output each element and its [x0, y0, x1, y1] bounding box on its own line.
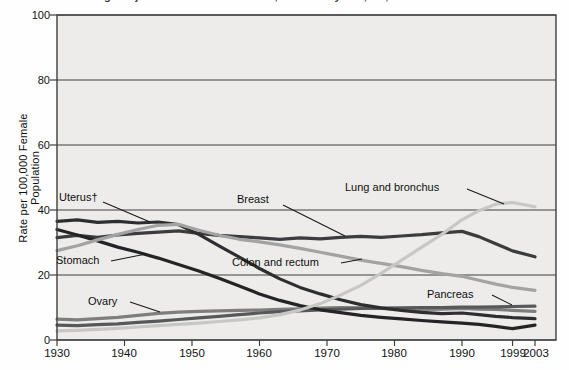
y-tick-label: 60 — [18, 139, 50, 152]
series-label-colon-rectum: Colon and rectum — [232, 256, 319, 268]
series-label-ovary: Ovary — [88, 295, 117, 307]
plot-area — [57, 15, 556, 340]
x-tick-label: 1930 — [35, 347, 79, 360]
x-tick-label: 1960 — [237, 347, 281, 360]
series-label-pancreas: Pancreas — [427, 288, 473, 300]
x-tick-label: 2003 — [514, 347, 558, 360]
line-chart-svg — [0, 0, 569, 370]
x-tick-label: 1940 — [102, 347, 146, 360]
y-tick-label: 40 — [18, 204, 50, 217]
series-label-uterus: Uterus† — [59, 191, 98, 203]
x-tick-label: 1950 — [170, 347, 214, 360]
cancer-death-rates-chart: Age-Adjusted Cancer Death Rates, Females… — [0, 0, 569, 370]
x-tick-label: 1990 — [440, 347, 484, 360]
x-tick-label: 1970 — [305, 347, 349, 360]
y-tick-label: 0 — [18, 334, 50, 347]
y-tick-label: 80 — [18, 74, 50, 87]
y-tick-label: 100 — [18, 9, 50, 22]
y-tick-label: 20 — [18, 269, 50, 282]
x-tick-label: 1980 — [372, 347, 416, 360]
series-label-breast: Breast — [237, 193, 269, 205]
series-label-stomach: Stomach — [56, 254, 99, 266]
y-axis-title: Rate per 100,000 Female Population — [17, 88, 31, 268]
series-label-lung-bronchus: Lung and bronchus — [345, 181, 439, 193]
